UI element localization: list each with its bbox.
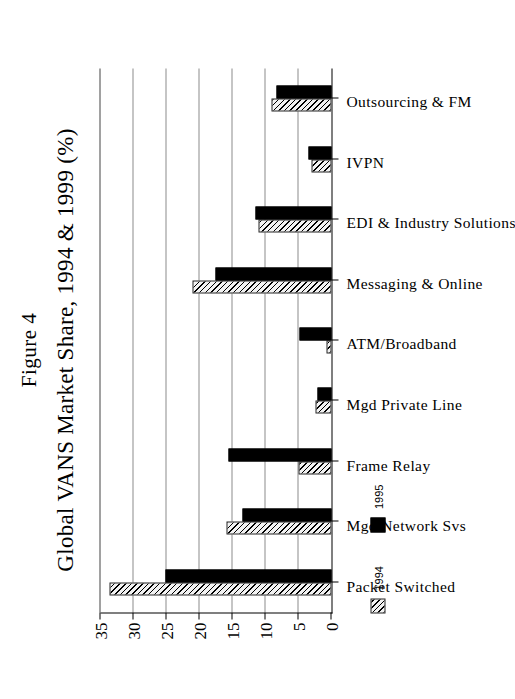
category-label: ATM/Broadband xyxy=(346,335,456,353)
category-tick xyxy=(331,97,338,98)
y-tick-35 xyxy=(99,612,100,619)
bar-1995 xyxy=(242,508,331,521)
chart-title: Global VANS Market Share, 1994 & 1999 (%… xyxy=(52,0,78,699)
bar-1994 xyxy=(192,280,331,293)
y-tick-label-10: 10 xyxy=(257,622,274,654)
bar-1995 xyxy=(228,448,331,461)
y-tick-5 xyxy=(297,612,298,619)
bar-1995 xyxy=(276,85,331,98)
category-label: Messaging & Online xyxy=(346,274,482,292)
category-label: EDI & Industry Solutions xyxy=(346,213,515,231)
y-tick-0 xyxy=(330,612,331,619)
y-tick-label-25: 25 xyxy=(158,622,175,654)
y-tick-label-20: 20 xyxy=(191,622,208,654)
bar-1994 xyxy=(326,340,331,353)
legend-label: 1994 xyxy=(372,566,384,590)
bar-1995 xyxy=(255,206,331,219)
bar-1994 xyxy=(258,219,331,232)
y-tick-20 xyxy=(198,612,199,619)
bar-group xyxy=(100,249,331,309)
bar-1994 xyxy=(315,400,331,413)
category-tick xyxy=(331,399,338,400)
bar-group xyxy=(100,129,331,189)
bar-group xyxy=(100,310,331,370)
category-tick xyxy=(331,279,338,280)
bar-group xyxy=(100,189,331,249)
legend-item-1994: 1994 xyxy=(370,566,385,613)
bar-1994 xyxy=(271,98,331,111)
y-tick-30 xyxy=(132,612,133,619)
category-label: Frame Relay xyxy=(346,456,430,474)
legend: 19941995 xyxy=(370,484,385,613)
category-label: IVPN xyxy=(346,153,384,171)
y-tick-label-0: 0 xyxy=(323,622,340,654)
bar-1994 xyxy=(226,521,331,534)
plot-area: 05101520253035 Packet SwitchedMgd Networ… xyxy=(100,68,332,613)
y-tick-label-30: 30 xyxy=(125,622,142,654)
y-tick-10 xyxy=(264,612,265,619)
bar-1995 xyxy=(317,387,331,400)
bar-1995 xyxy=(215,267,331,280)
legend-swatch-1994 xyxy=(370,598,385,613)
category-tick xyxy=(331,581,338,582)
category-tick xyxy=(331,339,338,340)
figure-label: Figure 4 xyxy=(16,0,41,699)
category-tick xyxy=(331,520,338,521)
category-tick xyxy=(331,158,338,159)
bar-1995 xyxy=(308,146,331,159)
legend-label: 1995 xyxy=(372,484,384,508)
bar-1995 xyxy=(299,327,331,340)
bar-groups xyxy=(100,68,331,612)
bar-group xyxy=(100,370,331,430)
legend-swatch-1995 xyxy=(370,517,385,532)
y-tick-label-15: 15 xyxy=(224,622,241,654)
y-tick-25 xyxy=(165,612,166,619)
y-tick-label-5: 5 xyxy=(290,622,307,654)
bar-group xyxy=(100,68,331,128)
bar-1995 xyxy=(165,569,331,582)
category-label: Packet Switched xyxy=(346,577,455,595)
y-tick-label-35: 35 xyxy=(92,622,109,654)
bar-1994 xyxy=(109,582,331,595)
category-label: Mgd Network Svs xyxy=(346,516,466,534)
y-tick-15 xyxy=(231,612,232,619)
category-label: Outsourcing & FM xyxy=(346,92,471,110)
bar-group xyxy=(100,491,331,551)
bar-group xyxy=(100,552,331,612)
category-tick xyxy=(331,460,338,461)
bar-1994 xyxy=(311,159,331,172)
bar-1994 xyxy=(298,461,331,474)
category-tick xyxy=(331,218,338,219)
bar-group xyxy=(100,431,331,491)
legend-item-1995: 1995 xyxy=(370,484,385,531)
category-label: Mgd Private Line xyxy=(346,395,462,413)
